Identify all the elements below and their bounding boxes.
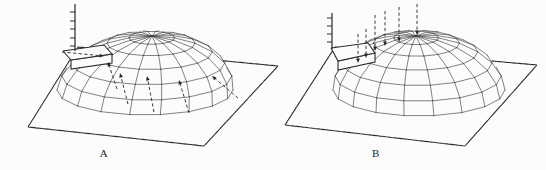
- panel-b-label: B: [372, 147, 380, 159]
- elevation-axis: [327, 13, 332, 49]
- diagram-canvas: [0, 0, 546, 170]
- panel-a: [28, 4, 278, 146]
- figure-two-dome-diagrams: A B: [0, 0, 546, 170]
- ground-plane: [28, 47, 278, 146]
- panel-a-label: A: [100, 147, 108, 159]
- panel-b: [285, 4, 537, 146]
- dome-wireframe: [57, 31, 233, 115]
- dome-wireframe: [333, 30, 505, 115]
- elevation-axis: [70, 4, 75, 51]
